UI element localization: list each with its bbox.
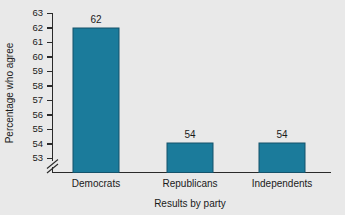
x-tick-label-independents: Independents [252, 178, 313, 189]
bar-independents [259, 143, 305, 173]
x-tick-label-republicans: Republicans [162, 178, 217, 189]
chart-canvas: Percentage who agree 63 62 61 60 59 58 5… [0, 0, 345, 215]
bar-value-label: 54 [184, 129, 196, 140]
bar-value-label: 62 [90, 14, 102, 25]
y-tick-label: 55 [32, 123, 43, 134]
y-tick-label: 62 [32, 22, 43, 33]
bar-republicans [167, 143, 213, 173]
y-tick-label: 54 [32, 138, 43, 149]
y-tick-label: 56 [32, 109, 43, 120]
bar-democrats [73, 28, 119, 173]
y-tick-label: 60 [32, 51, 43, 62]
bar-chart: Percentage who agree 63 62 61 60 59 58 5… [0, 0, 345, 215]
y-tick-label: 63 [32, 7, 43, 18]
x-tick-label-democrats: Democrats [72, 178, 120, 189]
y-tick-label: 58 [32, 80, 43, 91]
x-axis-category-labels: Democrats Republicans Independents [72, 178, 312, 189]
y-axis-tick-labels: 63 62 61 60 59 58 57 56 55 54 53 [32, 7, 43, 163]
bar-value-label: 54 [276, 129, 288, 140]
y-tick-label: 61 [32, 36, 43, 47]
x-axis-title: Results by party [154, 198, 226, 209]
y-tick-label: 53 [32, 152, 43, 163]
y-tick-label: 57 [32, 94, 43, 105]
y-tick-label: 59 [32, 65, 43, 76]
y-axis-title: Percentage who agree [4, 42, 15, 143]
